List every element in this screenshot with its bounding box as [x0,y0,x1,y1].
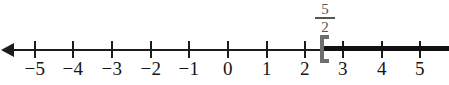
tick-label-neg3: −3 [92,58,132,80]
fraction-numerator: 5 [308,2,342,17]
tick-label-5: 5 [400,58,440,80]
solution-ray [322,46,449,51]
tick-mark [111,41,113,58]
fraction-denominator: 2 [308,19,342,34]
tick-label-0: 0 [208,58,248,80]
tick-mark [150,41,152,58]
tick-mark [227,41,229,58]
interval-bracket-icon [320,35,329,63]
number-line-figure: −5 −4 −3 −2 −1 0 1 2 3 4 5 5 2 [0,0,449,85]
tick-label-1: 1 [247,58,287,80]
tick-label-3: 3 [323,58,363,80]
tick-label-neg2: −2 [131,58,171,80]
tick-mark [188,41,190,58]
tick-label-4: 4 [362,58,402,80]
tick-mark [266,41,268,58]
tick-mark [72,41,74,58]
tick-label-neg5: −5 [15,58,55,80]
left-arrowhead-icon [1,43,14,57]
tick-label-neg1: −1 [169,58,209,80]
tick-mark [34,41,36,58]
tick-mark [304,41,306,58]
tick-label-2: 2 [285,58,325,80]
bracket-value-label: 5 2 [308,2,342,34]
tick-label-neg4: −4 [53,58,93,80]
